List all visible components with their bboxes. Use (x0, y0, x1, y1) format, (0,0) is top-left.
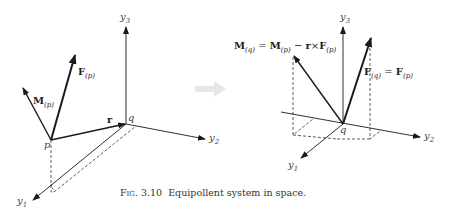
left-y2-label: y2 (209, 133, 219, 146)
left-diagram (23, 27, 205, 200)
left-r-label: r (107, 115, 112, 125)
right-moment-vector (294, 56, 343, 124)
left-r-vector (51, 124, 125, 140)
left-projection-tick (51, 184, 54, 192)
left-y1-axis (33, 124, 126, 200)
right-force-vector (343, 38, 371, 124)
right-y1-axis (301, 124, 343, 158)
figure-caption: Fig. 3.10 Equipollent system in space. (120, 188, 306, 198)
left-projection-dashed (51, 126, 136, 192)
right-force-equation: F(q) = F(p) (364, 67, 413, 80)
left-y1-label: y1 (17, 196, 27, 209)
transition-arrow-icon (195, 81, 226, 97)
caption-text: Equipollent system in space. (168, 187, 306, 198)
right-y2-label: y2 (424, 131, 434, 144)
right-moment-equation: M(q) = M(p) − r×F(p) (234, 41, 336, 54)
left-y2-axis (126, 124, 205, 139)
right-moment-projection-base (293, 135, 337, 139)
caption-label: Fig. 3.10 (120, 187, 162, 198)
left-point-p: p (44, 140, 50, 150)
right-y2-axis (281, 112, 420, 137)
right-force-projection (370, 38, 380, 139)
right-point-q: q (340, 125, 346, 135)
right-y3-label: y3 (340, 12, 350, 25)
diagram-canvas (0, 0, 450, 214)
right-y1-label: y1 (288, 160, 298, 173)
left-force-label: F(p) (78, 67, 95, 80)
left-y3-label: y3 (120, 12, 130, 25)
left-force-vector (51, 55, 75, 140)
left-point-q: q (128, 113, 134, 123)
left-moment-label: M(p) (33, 96, 54, 109)
